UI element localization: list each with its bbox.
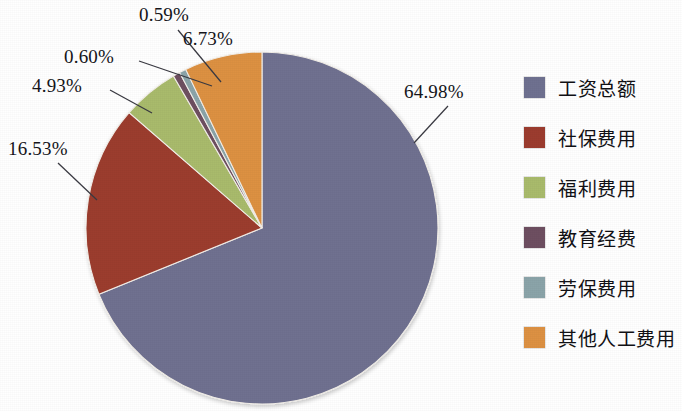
legend-color-swatch: [524, 277, 545, 298]
legend-color-swatch: [524, 227, 545, 248]
leader-line-slice-0: [414, 106, 448, 143]
legend-item-label: 福利费用: [558, 174, 636, 201]
legend-item[interactable]: 劳保费用: [524, 262, 680, 312]
legend-item[interactable]: 教育经费: [524, 212, 680, 262]
legend-item[interactable]: 其他人工费用: [524, 312, 680, 362]
slice-value-label-fuli: 4.93%: [32, 76, 82, 95]
legend-item-label: 其他人工费用: [558, 324, 675, 351]
slice-value-label-qita: 6.73%: [183, 29, 233, 48]
legend-color-swatch: [524, 177, 545, 198]
legend-item-label: 社保费用: [558, 124, 636, 151]
slice-value-label-shebao: 16.53%: [8, 139, 68, 158]
slice-value-label-laobao: 0.59%: [139, 5, 189, 24]
slice-value-label-gongzi: 64.98%: [404, 82, 464, 101]
legend-item-label: 劳保费用: [558, 274, 636, 301]
pie-chart-figure: 64.98% 16.53% 4.93% 0.60% 0.59% 6.73% 工资…: [0, 0, 682, 411]
legend-item[interactable]: 福利费用: [524, 162, 680, 212]
slice-value-label-jiaoyu: 0.60%: [64, 47, 114, 66]
legend-item[interactable]: 工资总额: [524, 62, 680, 112]
legend-color-swatch: [524, 127, 545, 148]
legend-color-swatch: [524, 327, 545, 348]
legend-color-swatch: [524, 77, 545, 98]
pie-slice-group: [86, 52, 438, 404]
legend-item-label: 教育经费: [558, 224, 636, 251]
leader-line-slice-1: [58, 163, 97, 200]
chart-legend: 工资总额社保费用福利费用教育经费劳保费用其他人工费用: [524, 62, 680, 362]
legend-item-label: 工资总额: [558, 74, 636, 101]
legend-item[interactable]: 社保费用: [524, 112, 680, 162]
